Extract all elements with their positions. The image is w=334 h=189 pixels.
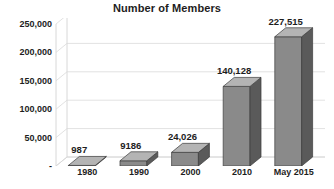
chart-title: Number of Members [0,2,334,14]
chart-container: Number of Members -50,000100,000150,0002… [0,0,334,189]
bar-value-label: 9186 [120,140,141,151]
bar-value-label: 140,128 [217,65,251,76]
x-axis-tick-label: 2000 [180,167,200,177]
x-axis-tick-label: 1980 [77,167,97,177]
bar-value-label: 987 [71,144,87,155]
x-axis-tick-label: 2010 [232,167,252,177]
x-axis-labels: 1980199020002010May 2015 [0,166,334,186]
bars-layer [0,18,334,166]
bar-value-label: 227,515 [268,16,302,27]
x-axis-tick-label: 1990 [129,167,149,177]
x-axis-tick-label: May 2015 [274,167,314,177]
bar-value-label: 24,026 [168,131,197,142]
bar-series [0,18,334,166]
